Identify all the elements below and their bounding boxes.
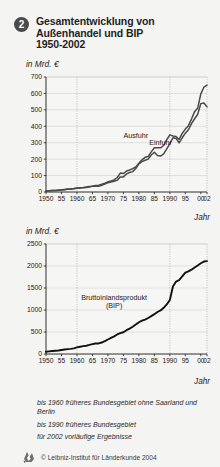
- footnote-item: für 2002 vorläufige Ergebnisse: [37, 432, 212, 441]
- y-axis-tick-label: 500: [31, 328, 43, 335]
- chart2-unit-label: in Mrd. €: [0, 226, 220, 236]
- series-annotation-bip-sub: (BIP): [106, 301, 122, 310]
- figure-number-badge: 2: [14, 17, 29, 32]
- chart1-svg: 0100200300400500600700195055196065197075…: [0, 69, 220, 214]
- y-axis-tick-label: 500: [31, 106, 43, 113]
- y-axis-tick-label: 600: [31, 90, 43, 97]
- footnote-item: bis 1960 früheres Bundesgebiet ohne Saar…: [37, 398, 212, 417]
- footnote-item: bis 1990 früheres Bundesgebiet: [37, 420, 212, 429]
- chart1-unit-label: in Mrd. €: [0, 59, 220, 69]
- page-title-line-1: Gesamtentwicklung von: [36, 16, 155, 28]
- x-axis-tick-label: 1980: [132, 195, 147, 202]
- x-axis-tick-label: 85: [151, 195, 159, 202]
- x-axis-tick-label: 02: [203, 195, 211, 202]
- x-axis-tick-label: 55: [58, 195, 66, 202]
- y-axis-tick-label: 1000: [27, 306, 42, 313]
- series-annotation-einfuhr: Einfuhr: [149, 138, 172, 147]
- y-axis-tick-label: 300: [31, 139, 43, 146]
- x-axis-tick-label: 1990: [163, 195, 178, 202]
- x-axis-tick-label: 1950: [39, 195, 54, 202]
- footnotes: bis 1960 früheres Bundesgebiet ohne Saar…: [0, 398, 220, 442]
- x-axis-tick-label: 75: [120, 195, 128, 202]
- y-axis-tick-label: 100: [31, 172, 43, 179]
- x-axis-tick-label: 1990: [163, 357, 178, 364]
- chart-aussenhandel: in Mrd. € 010020030040050060070019505519…: [0, 59, 220, 222]
- y-axis-tick-label: 200: [31, 155, 43, 162]
- x-axis-tick-label: 1960: [70, 195, 85, 202]
- y-axis-tick-label: 1500: [27, 284, 42, 291]
- chart1-xaxis-label: Jahr: [0, 213, 220, 222]
- series-annotation-ausfuhr: Ausfuhr: [123, 131, 148, 140]
- x-axis-tick-label: 75: [120, 357, 128, 364]
- page-title-line-3: 1950-2002: [36, 39, 155, 51]
- x-axis-tick-label: 85: [151, 357, 159, 364]
- x-axis-tick-label: 1950: [39, 357, 54, 364]
- x-axis-tick-label: 02: [203, 357, 211, 364]
- x-axis-tick-label: 1970: [101, 195, 116, 202]
- infographic-page: 2 Gesamtentwicklung von Außenhandel und …: [0, 0, 220, 467]
- y-axis-tick-label: 400: [31, 122, 43, 129]
- chart1-plot: 0100200300400500600700195055196065197075…: [0, 69, 220, 214]
- x-axis-tick-label: 1980: [132, 357, 147, 364]
- x-axis-tick-label: 65: [89, 195, 97, 202]
- chart-bip: in Mrd. € 050010001500200025001950551960…: [0, 226, 220, 386]
- x-axis-tick-label: 1960: [70, 357, 85, 364]
- x-axis-tick-label: 95: [182, 195, 190, 202]
- chart2-svg: 0500100015002000250019505519606519707519…: [0, 236, 220, 378]
- credit-text: © Leibniz-Institut für Länderkunde 2004: [41, 454, 157, 461]
- chart2-xaxis-label: Jahr: [0, 377, 220, 386]
- x-axis-tick-label: 55: [58, 357, 66, 364]
- x-axis-tick-label: 95: [182, 357, 190, 364]
- x-axis-tick-label: 65: [89, 357, 97, 364]
- x-axis-tick-label: 1970: [101, 357, 116, 364]
- credit-line: © Leibniz-Institut für Länderkunde 2004: [0, 450, 220, 464]
- page-title: Gesamtentwicklung von Außenhandel und BI…: [36, 16, 155, 51]
- chart2-plot: 0500100015002000250019505519606519707519…: [0, 236, 220, 378]
- y-axis-tick-label: 700: [31, 73, 43, 80]
- y-axis-tick-label: 2000: [27, 262, 42, 269]
- header: 2 Gesamtentwicklung von Außenhandel und …: [0, 0, 220, 51]
- y-axis-tick-label: 2500: [27, 240, 42, 247]
- leibniz-logo-icon: [22, 450, 36, 464]
